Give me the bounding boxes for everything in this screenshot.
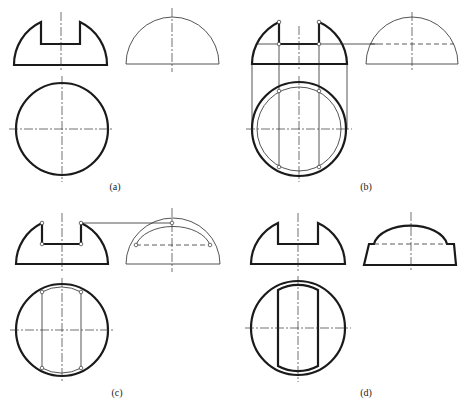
panel-b-side-view — [366, 12, 458, 70]
panel-d: (d) — [245, 212, 456, 399]
panel-a-top-view — [9, 76, 114, 182]
panel-d-front-view — [251, 213, 345, 272]
technical-drawing: (a) — [0, 0, 467, 403]
panel-c-side-view — [126, 208, 220, 272]
panel-c: (c) — [10, 208, 220, 399]
panel-c-front-view — [16, 213, 172, 272]
panel-a-side-view — [126, 8, 219, 72]
panel-d-top-view — [245, 276, 351, 382]
panel-b-top-view — [246, 76, 352, 182]
panel-a-front-view — [14, 12, 107, 72]
panel-b-front-view — [252, 20, 378, 167]
panel-a: (a) — [9, 8, 219, 193]
panel-label-a: (a) — [109, 181, 120, 193]
panel-label-b: (b) — [360, 181, 372, 193]
panel-label-c: (c) — [111, 387, 122, 399]
panel-c-top-view — [10, 278, 115, 382]
panel-b: (b) — [246, 12, 458, 193]
panel-d-side-view — [364, 212, 456, 272]
panel-label-d: (d) — [360, 387, 372, 399]
